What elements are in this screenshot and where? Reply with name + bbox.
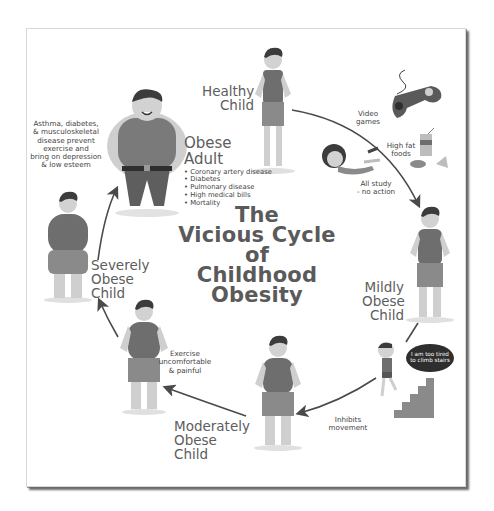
video-game-controller-icon [385, 66, 445, 126]
mildly-obese-child-label: Mildly Obese Child [362, 280, 404, 323]
studying-girl-figure [320, 142, 390, 182]
title-line: of [162, 245, 352, 265]
obese-adult-figure [102, 88, 192, 218]
severely-obese-child-label: Severely Obese Child [91, 258, 171, 301]
label-line: foods [383, 150, 419, 158]
label-line: Obese Child [174, 433, 254, 461]
exercise-painful-label: Exercise uncomfortable & painful [158, 350, 212, 375]
label-line: Child [362, 308, 404, 322]
obese-adult-label: Obese Adult Coronary artery disease Diab… [184, 136, 294, 208]
label-line: Severely [91, 258, 171, 272]
risk-item: Mortality [184, 200, 294, 208]
title-line: Childhood [162, 265, 352, 285]
severely-obese-child-figure [40, 194, 96, 304]
high-fat-foods-icon [412, 128, 462, 178]
title-line: Obesity [162, 285, 352, 305]
label-line: Obese [362, 294, 404, 308]
moderately-obese-child-label: Moderately Obese Child [174, 419, 254, 462]
title-line: The [162, 205, 352, 225]
label-line: Child [202, 98, 254, 112]
diagram-title: The Vicious Cycle of Childhood Obesity [162, 205, 352, 305]
label-line: Obese Child [91, 272, 171, 300]
video-games-label: Video games [350, 110, 386, 127]
label-line: & low esteem [30, 161, 102, 169]
adult-risk-list: Coronary artery disease Diabetes Pulmona… [184, 169, 294, 208]
adult-conditions-label: Asthma, diabetes, & musculoskeletal dise… [30, 120, 102, 170]
label-line: - no action [356, 188, 396, 196]
moderately-obese-child-figure [250, 334, 306, 454]
label-line: & painful [158, 367, 212, 375]
label-line: Healthy [202, 84, 254, 98]
all-study-label: All study - no action [356, 180, 396, 197]
healthy-child-label: Healthy Child [202, 84, 254, 112]
speech-bubble: I am too tired to climb stairs [406, 344, 454, 372]
label-line: games [350, 118, 386, 126]
mildly-obese-child-figure [404, 205, 456, 325]
label-line: Mildly [362, 280, 404, 294]
label-line: Adult [184, 152, 294, 168]
label-line: movement [326, 424, 370, 432]
high-fat-foods-label: High fat foods [383, 142, 419, 159]
inhibits-movement-label: Inhibits movement [326, 416, 370, 433]
title-line: Vicious Cycle [162, 225, 352, 245]
label-line: Moderately [174, 419, 254, 433]
